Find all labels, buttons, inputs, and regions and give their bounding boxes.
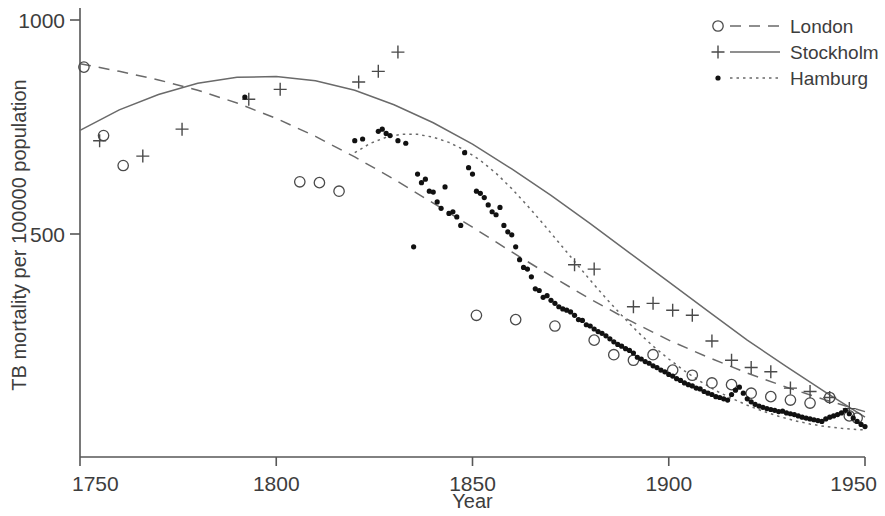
data-point — [729, 392, 734, 397]
data-point — [580, 318, 585, 323]
data-point — [334, 186, 344, 196]
series-points-hamburg — [242, 94, 867, 429]
x-tick-label-1750: 1750 — [72, 472, 119, 495]
data-point — [529, 274, 534, 279]
data-point — [705, 335, 718, 348]
data-point — [609, 349, 619, 359]
legend-label-stockholm: Stockholm — [790, 42, 879, 63]
data-point — [550, 321, 560, 331]
data-point — [470, 171, 475, 176]
data-point — [411, 244, 416, 249]
data-point — [707, 378, 717, 388]
trend-line-london — [80, 64, 865, 412]
legend-marker-hamburg — [715, 75, 720, 80]
series-points-london — [79, 62, 863, 423]
x-tick-label-1900: 1900 — [645, 472, 692, 495]
legend-marker-stockholm — [712, 46, 725, 59]
data-point — [419, 180, 424, 185]
data-point — [176, 123, 189, 136]
data-point — [295, 177, 305, 187]
data-point — [450, 209, 455, 214]
data-points-layer — [79, 46, 868, 430]
data-point — [687, 370, 697, 380]
data-point — [589, 335, 599, 345]
data-point — [513, 244, 518, 249]
data-point — [631, 350, 636, 355]
data-point — [423, 177, 428, 182]
data-point — [501, 223, 506, 228]
data-point — [784, 382, 797, 395]
data-point — [804, 385, 817, 398]
data-point — [509, 232, 514, 237]
data-point — [352, 76, 365, 89]
data-point — [435, 199, 440, 204]
data-point — [843, 408, 848, 413]
data-point — [766, 391, 776, 401]
data-point — [525, 266, 530, 271]
data-point — [403, 141, 408, 146]
legend-label-london: London — [790, 16, 853, 37]
x-tick-label-1800: 1800 — [253, 472, 300, 495]
data-point — [764, 365, 777, 378]
chart-canvas: 175018001850190019505001000 LondonStockh… — [0, 0, 885, 516]
data-point — [805, 398, 815, 408]
data-point — [552, 301, 557, 306]
data-point — [360, 136, 365, 141]
data-point — [391, 46, 404, 59]
data-point — [497, 205, 502, 210]
data-point — [785, 395, 795, 405]
data-point — [568, 309, 573, 314]
series-points-stockholm — [93, 46, 856, 416]
x-axis-title: Year — [452, 490, 493, 512]
data-point — [686, 309, 699, 322]
data-point — [395, 138, 400, 143]
axes-layer: 175018001850190019505001000 — [18, 8, 877, 495]
legend-marker-london — [713, 21, 723, 31]
data-point — [372, 65, 385, 78]
data-point — [415, 171, 420, 176]
trend-lines-layer — [80, 64, 865, 430]
data-point — [725, 354, 738, 367]
data-point — [431, 189, 436, 194]
legend-label-hamburg: Hamburg — [790, 68, 868, 89]
data-point — [454, 214, 459, 219]
data-point — [568, 258, 581, 271]
data-point — [242, 94, 247, 99]
data-point — [648, 349, 658, 359]
data-point — [725, 397, 730, 402]
data-point — [471, 310, 481, 320]
data-point — [847, 411, 852, 416]
data-point — [510, 314, 520, 324]
y-tick-label-1000: 1000 — [18, 9, 65, 32]
data-point — [572, 313, 577, 318]
tb-mortality-chart: 175018001850190019505001000 LondonStockh… — [0, 0, 885, 516]
data-point — [862, 424, 867, 429]
data-point — [93, 134, 106, 147]
data-point — [627, 300, 640, 313]
data-point — [352, 138, 357, 143]
y-axis-title: TB mortality per 100000 population — [8, 79, 30, 390]
data-point — [380, 127, 385, 132]
data-point — [274, 83, 287, 96]
data-point — [387, 133, 392, 138]
data-point — [118, 160, 128, 170]
data-point — [493, 212, 498, 217]
y-tick-label-500: 500 — [30, 223, 65, 246]
trend-line-stockholm — [80, 77, 865, 418]
data-point — [136, 150, 149, 163]
data-point — [737, 385, 742, 390]
chart-legend: LondonStockholmHamburg — [712, 16, 879, 89]
data-point — [458, 223, 463, 228]
data-point — [439, 206, 444, 211]
data-point — [462, 150, 467, 155]
data-point — [442, 184, 447, 189]
trend-line-hamburg — [355, 134, 865, 430]
data-point — [745, 361, 758, 374]
data-point — [666, 304, 679, 317]
data-point — [486, 202, 491, 207]
data-point — [482, 195, 487, 200]
data-point — [466, 165, 471, 170]
data-point — [823, 391, 836, 404]
data-point — [588, 263, 601, 276]
data-point — [537, 288, 542, 293]
